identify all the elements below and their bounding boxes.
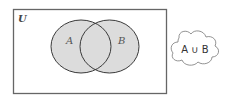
set-b-label: B [117, 35, 125, 46]
venn-diagram: U A B A ∪ B [0, 0, 233, 97]
union-shading [51, 20, 139, 73]
cloud-label: A ∪ B [181, 44, 209, 55]
universe-label: U [18, 13, 28, 24]
set-a-label: A [65, 35, 73, 46]
